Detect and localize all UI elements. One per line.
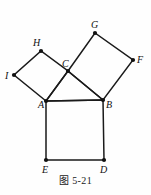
vertex-label-c: C — [62, 58, 69, 69]
vertex-label-b: B — [106, 99, 112, 110]
figure-container: A B C D E F G H I 图 5-21 — [0, 0, 151, 195]
geometry-canvas: A B C D E F G H I — [0, 0, 151, 195]
square-cgfb — [68, 33, 133, 100]
vertex-label-f: F — [136, 54, 144, 65]
vertex-dot-a — [44, 99, 48, 103]
segment-cb — [68, 71, 103, 100]
square-abde — [46, 100, 104, 160]
figure-caption: 图 5-21 — [0, 172, 151, 187]
vertex-label-i: I — [4, 70, 9, 81]
square-aihc — [14, 51, 68, 101]
vertex-label-h: H — [32, 37, 41, 48]
vertex-dot-d — [102, 158, 106, 162]
vertex-dot-f — [131, 58, 135, 62]
vertex-label-g: G — [91, 19, 98, 30]
vertex-dot-g — [93, 31, 97, 35]
segment-ab — [46, 100, 103, 101]
vertex-dot-i — [12, 73, 16, 77]
segment-ac — [46, 71, 68, 101]
vertex-label-a: A — [37, 99, 45, 110]
vertex-dot-b — [101, 98, 105, 102]
vertex-dot-h — [39, 49, 43, 53]
vertex-dot-c — [66, 69, 70, 73]
vertex-dot-e — [44, 158, 48, 162]
